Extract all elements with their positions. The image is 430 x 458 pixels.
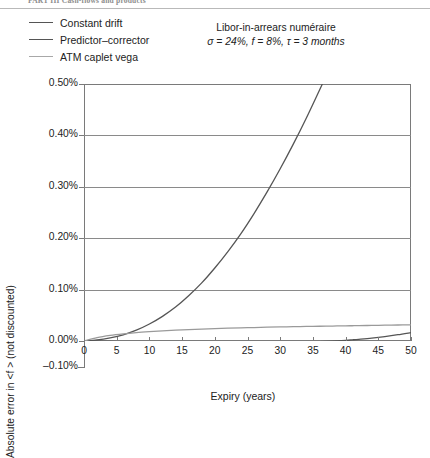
y-tick-mark — [79, 341, 84, 342]
legend-label-constant-drift: Constant drift — [60, 17, 122, 29]
legend-label-atm-caplet-vega: ATM caplet vega — [60, 51, 138, 63]
x-tick-mark — [182, 337, 183, 341]
annotation-numeraire: Libor-in-arrears numéraire — [186, 21, 366, 35]
x-tick-mark — [248, 337, 249, 341]
x-tick-label: 15 — [170, 345, 194, 356]
y-tick-label: 0.20% — [32, 231, 78, 242]
y-tick-mark — [79, 187, 84, 188]
y-tick-label: 0.00% — [32, 334, 78, 345]
y-tick-mark — [79, 238, 84, 239]
curve-constant-drift — [84, 84, 322, 341]
y-tick-mark — [79, 290, 84, 291]
data-curves — [84, 84, 411, 341]
annotation-sigma: σ = 24%, — [207, 36, 248, 47]
y-axis-title-wrapper: Absolute error in <f > (not discounted) — [8, 330, 9, 331]
y-tick-label: 0.10% — [32, 283, 78, 294]
x-tick-mark — [411, 337, 412, 341]
x-tick-label: 0 — [72, 345, 96, 356]
chart-annotation: Libor-in-arrears numéraire σ = 24%, f = … — [186, 21, 366, 48]
legend-label-predictor-corrector: Predictor–corrector — [60, 34, 149, 46]
y-tick-label: 0.50% — [32, 77, 78, 88]
running-header-text: PART III Cash-flows and products — [28, 0, 146, 5]
x-tick-label: 30 — [268, 345, 292, 356]
header-divider — [0, 8, 430, 9]
legend-item-atm-caplet-vega: ATM caplet vega — [29, 48, 149, 65]
x-tick-label: 50 — [399, 345, 423, 356]
x-tick-mark — [117, 337, 118, 341]
annotation-tau: τ = 3 months — [287, 36, 345, 47]
y-tick-mark — [79, 135, 84, 136]
chart-legend: Constant drift Predictor–corrector ATM c… — [29, 14, 149, 65]
x-tick-mark — [280, 337, 281, 341]
y-tick-label: 0.40% — [32, 128, 78, 139]
y-axis-title: Absolute error in <f > (not discounted) — [5, 258, 16, 458]
annotation-forward: f = 8%, — [252, 36, 284, 47]
legend-item-predictor-corrector: Predictor–corrector — [29, 31, 149, 48]
x-tick-mark — [149, 337, 150, 341]
annotation-parameters: σ = 24%, f = 8%, τ = 3 months — [186, 35, 366, 49]
y-tick-label: 0.30% — [32, 180, 78, 191]
y-tick-mark — [79, 84, 84, 85]
x-tick-mark — [84, 337, 85, 341]
y-tick-mark — [79, 367, 84, 368]
x-tick-label: 40 — [334, 345, 358, 356]
x-tick-mark — [378, 337, 379, 341]
x-tick-label: 10 — [137, 345, 161, 356]
x-tick-label: 5 — [105, 345, 129, 356]
x-tick-mark — [346, 337, 347, 341]
legend-swatch-predictor-corrector — [29, 39, 53, 40]
plot-area — [84, 84, 411, 341]
x-axis-title: Expiry (years) — [0, 390, 430, 402]
x-tick-mark — [215, 337, 216, 341]
y-tick-label: –0.10% — [32, 360, 78, 371]
legend-swatch-constant-drift — [29, 22, 53, 23]
legend-item-constant-drift: Constant drift — [29, 14, 149, 31]
x-tick-label: 45 — [366, 345, 390, 356]
x-tick-mark — [313, 337, 314, 341]
x-tick-label: 25 — [236, 345, 260, 356]
legend-swatch-atm-caplet-vega — [29, 56, 53, 57]
x-tick-label: 35 — [301, 345, 325, 356]
x-tick-label: 20 — [203, 345, 227, 356]
